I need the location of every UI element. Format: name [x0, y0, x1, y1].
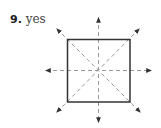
- symmetry-diagram: [0, 0, 161, 128]
